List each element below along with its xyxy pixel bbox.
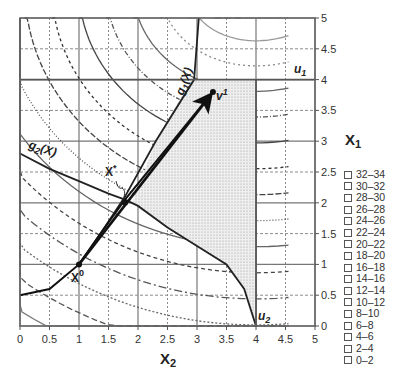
y-tick-label: 2.5	[321, 166, 336, 178]
legend-swatch-icon	[344, 229, 352, 237]
xstar-label: X*	[105, 163, 117, 179]
x-tick-label: 4	[253, 333, 259, 345]
y-tick-label: 2	[321, 197, 327, 209]
legend-label: 8–10	[356, 308, 379, 320]
x-tick-label: 1	[76, 333, 82, 345]
x-axis-title: X2	[160, 350, 176, 369]
legend-swatch-icon	[344, 240, 352, 248]
legend-swatch-icon	[344, 275, 352, 283]
legend-label: 12–14	[356, 285, 385, 297]
legend-swatch-icon	[344, 310, 352, 318]
legend-item: 12–14	[344, 285, 385, 297]
legend-swatch-icon	[344, 345, 352, 353]
xstar-pointer	[116, 181, 125, 197]
legend-item: 2–4	[344, 343, 385, 355]
y-tick-label: 4	[321, 74, 327, 86]
legend-swatch-icon	[344, 322, 352, 330]
legend-label: 22–24	[356, 227, 385, 239]
point-x	[122, 200, 128, 206]
x-tick-label: 2.5	[160, 333, 175, 345]
legend-swatch-icon	[344, 264, 352, 272]
legend-label: 2–4	[356, 343, 374, 355]
legend-swatch-icon	[344, 171, 352, 179]
legend: 32–3430–3228–3026–2824–2622–2420–2218–20…	[344, 169, 385, 366]
legend-label: 0–2	[356, 355, 374, 367]
y-tick-label: 3.5	[321, 104, 336, 116]
legend-label: 32–34	[356, 169, 385, 181]
y-axis-title: X1	[345, 131, 361, 150]
legend-swatch-icon	[344, 194, 352, 202]
legend-label: 18–20	[356, 250, 385, 262]
optimization-plot: 00.511.522.533.544.5500.511.522.533.544.…	[0, 0, 398, 381]
x-tick-label: 3	[194, 333, 200, 345]
x-tick-label: 5	[312, 333, 318, 345]
point-x0	[76, 261, 82, 267]
legend-item: 0–2	[344, 355, 385, 367]
u2-label: u2	[258, 309, 270, 325]
y-tick-label: 4.5	[321, 43, 336, 55]
legend-item: 32–34	[344, 169, 385, 181]
x-tick-label: 3.5	[219, 333, 234, 345]
x-tick-label: 4.5	[278, 333, 293, 345]
y-tick-label: 0	[321, 320, 327, 332]
x-tick-label: 0.5	[42, 333, 57, 345]
x-tick-label: 2	[135, 333, 141, 345]
legend-swatch-icon	[344, 182, 352, 190]
u1-label: u1	[294, 62, 306, 78]
y-tick-label: 0.5	[321, 289, 336, 301]
x-tick-label: 1.5	[101, 333, 116, 345]
legend-swatch-icon	[344, 333, 352, 341]
contour-line	[187, 18, 288, 41]
legend-swatch-icon	[344, 298, 352, 306]
legend-swatch-icon	[344, 217, 352, 225]
legend-swatch-icon	[344, 206, 352, 214]
legend-swatch-icon	[344, 252, 352, 260]
x0-label: X0	[71, 268, 84, 285]
legend-item: 18–20	[344, 250, 385, 262]
y-tick-label: 1	[321, 258, 327, 270]
legend-item: 8–10	[344, 308, 385, 320]
x-tick-label: 0	[17, 333, 23, 345]
y-tick-label: 3	[321, 135, 327, 147]
y-tick-label: 5	[321, 12, 327, 24]
y-tick-label: 1.5	[321, 228, 336, 240]
legend-item: 22–24	[344, 227, 385, 239]
contour-line	[160, 18, 288, 66]
legend-swatch-icon	[344, 356, 352, 364]
legend-swatch-icon	[344, 287, 352, 295]
